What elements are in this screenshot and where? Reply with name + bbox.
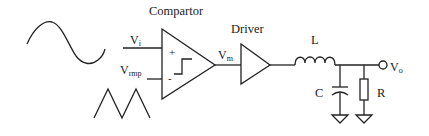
hysteresis-step-icon xyxy=(174,59,192,74)
resistor-symbol xyxy=(360,79,368,100)
resistor-label: R xyxy=(377,86,386,100)
comparator-symbol xyxy=(162,29,215,99)
ground-icon xyxy=(356,115,372,123)
driver-symbol xyxy=(241,44,270,84)
inductor-label: L xyxy=(311,33,319,47)
capacitor-label: C xyxy=(315,86,323,100)
vi-label: Vi xyxy=(130,33,142,48)
comparator-label: Compartor xyxy=(149,4,204,18)
driver-label: Driver xyxy=(231,22,264,36)
plus-sign: + xyxy=(169,46,175,58)
inductor-symbol xyxy=(295,57,335,65)
minus-sign: - xyxy=(168,72,172,84)
triangle-wave-icon xyxy=(94,89,150,118)
sine-wave-icon xyxy=(27,22,105,64)
vramp-label: Vrmp xyxy=(120,63,142,78)
circuit-diagram: + - Compartor Vi Vrmp Vm Driver L Vo C R xyxy=(0,0,429,136)
vm-label: Vm xyxy=(218,48,234,63)
vo-label: Vo xyxy=(390,60,403,75)
output-terminal xyxy=(379,61,387,69)
ground-icon xyxy=(332,115,348,123)
